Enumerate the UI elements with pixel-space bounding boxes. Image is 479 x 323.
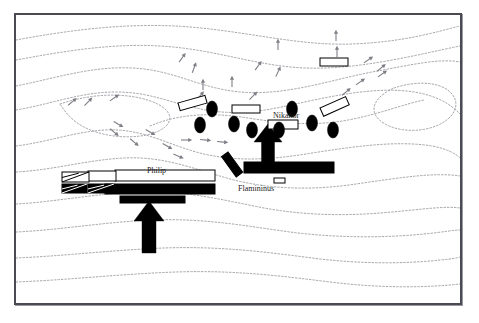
- unit-roman-cavalry-left-a: [62, 184, 87, 193]
- slope-hachure-icon: [363, 55, 375, 65]
- slope-hachure-icon: [276, 39, 280, 50]
- contour-line: [16, 192, 460, 215]
- unit-roman-legion-right: [244, 162, 334, 173]
- slope-hachure-icon: [217, 139, 229, 144]
- slope-hachure-icon: [274, 65, 283, 77]
- slope-hachure-icon: [248, 90, 259, 101]
- slope-hachure-icon: [162, 142, 174, 151]
- label-flamininus: Flamininus: [238, 185, 274, 193]
- contour-line: [16, 272, 460, 287]
- unit-macedonian-left-second: [88, 171, 116, 181]
- unit-macedonian-phalanx-right: [178, 95, 207, 110]
- slope-hachure-icon: [200, 137, 212, 142]
- slope-hachure-icon: [177, 52, 187, 64]
- unit-roman-cavalry-left-b: [88, 184, 114, 193]
- slope-hachure-icon: [334, 30, 338, 41]
- slope-hachure-icon: [181, 138, 192, 142]
- slope-hachure-icon: [230, 76, 234, 87]
- unit-roman-left-second: [120, 196, 185, 203]
- elephant-4: [247, 122, 258, 138]
- slope-hachure-icon: [335, 46, 339, 57]
- elephant-3: [229, 116, 240, 132]
- contour-line: [60, 95, 170, 137]
- slope-hachure-icon: [109, 93, 121, 103]
- elephant-5: [274, 122, 285, 138]
- slope-hachure-icon: [190, 61, 198, 73]
- label-philip: Philip: [147, 167, 166, 175]
- slope-hachure-icon: [113, 120, 125, 129]
- label-nikanor: Nikanor: [273, 112, 299, 120]
- slope-hachure-icon: [173, 152, 185, 161]
- elephant-2: [195, 117, 206, 133]
- elephant-7: [307, 115, 318, 131]
- slope-hachure-icon: [355, 77, 367, 87]
- contour-line: [16, 220, 460, 237]
- unit-roman-legion-left: [105, 184, 215, 194]
- contour-lines: [16, 25, 460, 286]
- map-canvas: [0, 0, 479, 323]
- contour-line: [16, 25, 460, 44]
- attack-arrow-roman-left: [134, 201, 164, 253]
- contour-line: [16, 45, 460, 68]
- contour-line: [16, 248, 460, 263]
- unit-macedonian-phalanx-center: [232, 105, 260, 113]
- unit-blocks: [62, 58, 349, 203]
- slope-hachure-icon: [341, 86, 352, 96]
- battle-map-figure: NikanorPhilipFlamininus: [0, 0, 479, 323]
- unit-macedonian-light-diagonal: [222, 152, 243, 177]
- elephant-8: [328, 122, 339, 138]
- unit-macedonian-reserve-top: [320, 58, 348, 66]
- unit-roman-small-marker: [274, 178, 285, 183]
- unit-macedonian-cavalry-left: [62, 172, 89, 182]
- unit-macedonian-phalanx-far-right: [320, 97, 349, 117]
- contour-line: [16, 130, 460, 159]
- contour-line: [16, 61, 460, 93]
- slope-hachure-icon: [129, 137, 140, 147]
- elephant-1: [207, 101, 218, 117]
